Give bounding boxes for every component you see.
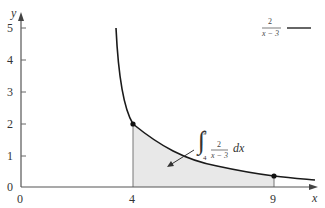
y-tick-1: 1 [7,149,13,164]
integral-denominator: x − 3 [211,151,228,160]
y-axis-label: y [11,6,16,21]
y-tick-4: 4 [7,53,13,68]
point-x4 [130,121,135,126]
legend-numerator: 2 [268,17,272,26]
x-tick-9: 9 [270,192,276,207]
integral-numerator: 2 [217,140,221,149]
y-axis-arrow-icon [18,12,24,21]
integral-upper-limit: 9 [203,129,207,137]
y-tick-5: 5 [7,21,13,36]
y-tick-0: 0 [7,180,13,195]
x-tick-0: 0 [17,192,23,207]
point-x9 [271,173,276,178]
x-axis-label: x [312,191,317,206]
integral-dx: dx [233,141,244,156]
x-tick-4: 4 [129,192,135,207]
y-tick-2: 2 [7,117,13,132]
x-axis-arrow-icon [309,184,318,190]
y-tick-3: 3 [7,85,13,100]
integral-lower-limit: 4 [203,154,207,162]
y-ticks [21,28,26,156]
legend-denominator: x − 3 [262,29,279,38]
